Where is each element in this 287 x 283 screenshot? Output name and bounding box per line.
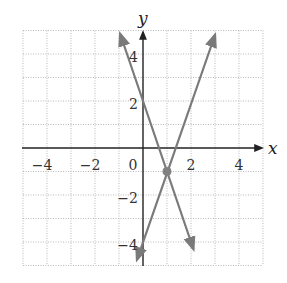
intersection-point <box>163 167 172 176</box>
y-axis-label: y <box>137 8 148 28</box>
chart: −4 −2 0 2 4 4 2 −2 −4 x y <box>0 0 287 283</box>
y-tick-label: 4 <box>129 49 138 65</box>
line-1 <box>120 34 193 249</box>
x-tick-label: 2 <box>187 157 196 173</box>
x-axis-label: x <box>268 138 278 158</box>
x-tick-label: −4 <box>32 157 53 173</box>
x-tick-label: −2 <box>80 157 101 173</box>
x-tick-label: 0 <box>129 157 138 173</box>
y-tick-label: 2 <box>129 96 138 112</box>
y-tick-label: −4 <box>117 237 138 253</box>
x-tick-label: 4 <box>235 157 244 173</box>
y-tick-label: −2 <box>117 190 138 206</box>
